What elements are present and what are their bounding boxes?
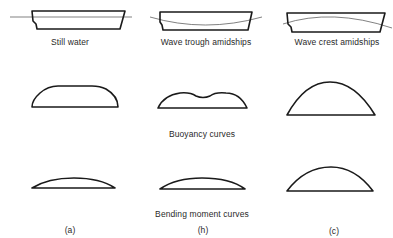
label-bending-moment-curves: Bending moment curves <box>155 209 249 219</box>
sublabel-c: (c) <box>329 226 339 236</box>
label-wave-crest: Wave crest amidships <box>295 37 380 47</box>
bending-moment-curve-a <box>32 178 115 188</box>
label-buoyancy-curves: Buoyancy curves <box>169 129 235 139</box>
bending-moment-curve-c <box>287 167 373 191</box>
waterline-crest <box>283 17 392 28</box>
waterline-trough <box>150 17 262 25</box>
hull-outline-c <box>287 13 385 32</box>
bending-moment-curve-b <box>160 178 245 189</box>
ship-hull-wave-crest <box>283 13 392 32</box>
buoyancy-curve-c <box>287 82 375 115</box>
hull-outline-b <box>160 12 252 30</box>
ship-hull-wave-trough <box>150 12 262 30</box>
label-wave-trough: Wave trough amidships <box>161 37 252 47</box>
buoyancy-curve-a <box>32 86 118 107</box>
ship-bending-diagram: Still water Wave trough amidships Wave c… <box>0 0 393 238</box>
hull-outline-a <box>32 11 125 29</box>
label-still-water: Still water <box>51 37 89 47</box>
ship-hull-still-water <box>10 11 132 29</box>
buoyancy-curve-b <box>158 93 247 108</box>
sublabel-b: (h) <box>198 225 209 235</box>
sublabel-a: (a) <box>65 225 76 235</box>
diagram-graphics <box>0 0 393 238</box>
